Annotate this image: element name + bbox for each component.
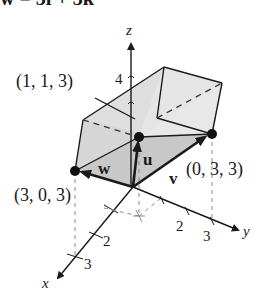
z-tick-label-4: 4 — [115, 72, 123, 87]
vector-u-label: u — [143, 151, 152, 168]
point-label-113: (1, 1, 3) — [16, 72, 73, 90]
x-axis-label: x — [42, 276, 49, 291]
point-303-dot — [70, 166, 80, 176]
x-tick-label-3: 3 — [84, 257, 92, 272]
point-113-dot — [134, 132, 144, 142]
y-tick-label-3: 3 — [203, 229, 211, 244]
x-tick-label-2: 2 — [103, 234, 111, 249]
x-tick-1 — [104, 205, 118, 213]
y-tick-3 — [210, 217, 214, 225]
vector-w-label: w — [98, 160, 110, 177]
vector-v-label: v — [169, 170, 178, 187]
z-axis-label: z — [126, 23, 132, 38]
diagram-canvas — [0, 0, 265, 291]
point-label-033: (0, 3, 3) — [186, 160, 243, 178]
point-033-dot — [207, 129, 217, 139]
y-tick-label-2: 2 — [176, 219, 184, 234]
y-axis-label: y — [243, 224, 250, 239]
point-label-303: (3, 0, 3) — [14, 186, 71, 204]
parallelepiped-diagram: w = 3i + 3k — [0, 0, 265, 291]
y-tick-2 — [185, 207, 189, 215]
